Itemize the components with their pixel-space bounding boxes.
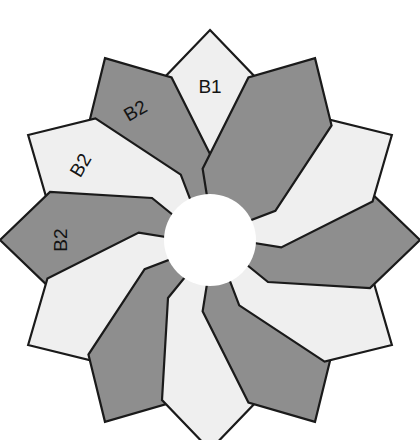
petal-label-3: B2 (50, 228, 71, 251)
figure-root: B1B2B2B2 (0, 0, 420, 440)
petal-label-0: B1 (198, 76, 221, 97)
center-hole (164, 194, 256, 286)
center-hole-group (164, 194, 256, 286)
petal-diagram-svg: B1B2B2B2 (0, 0, 420, 440)
